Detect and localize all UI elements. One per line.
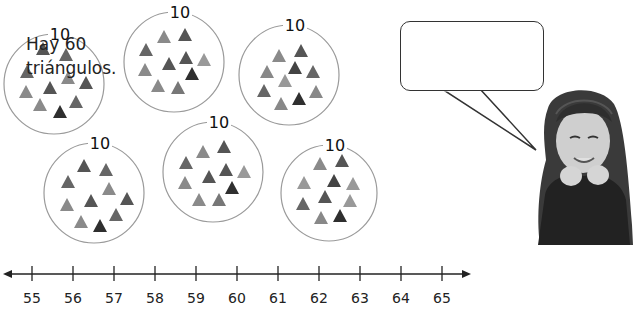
tick-label: 57 [105, 290, 123, 306]
group-count-label: 10 [325, 136, 345, 155]
triangle-icon [335, 154, 349, 167]
triangle-icon [346, 177, 360, 190]
triangle-icon [197, 53, 211, 66]
face [556, 109, 610, 173]
tick-label: 61 [269, 290, 287, 306]
triangle-icon [260, 65, 274, 78]
triangle-icon [19, 85, 33, 98]
triangle-icon [309, 85, 323, 98]
number-line: 5556575859606162636465 [3, 266, 471, 306]
triangle-icon [327, 174, 341, 187]
group-circle [44, 143, 144, 243]
tick-label: 55 [23, 290, 41, 306]
tick-label: 56 [64, 290, 82, 306]
speech-line-1: Hay 60 [26, 32, 166, 56]
speech-bubble [400, 21, 544, 91]
triangle-icon [314, 211, 328, 224]
triangle-icon [43, 81, 57, 94]
triangle-icon [109, 208, 123, 221]
triangle-icon [179, 51, 193, 64]
triangle-icon [178, 28, 192, 41]
girl-photo [538, 90, 633, 245]
triangle-group: 10 [239, 16, 339, 125]
triangle-icon [120, 192, 134, 205]
group-circle [281, 145, 377, 241]
triangle-icon [297, 176, 311, 189]
triangle-icon [274, 97, 288, 110]
triangle-icon [99, 163, 113, 176]
triangle-icon [178, 176, 192, 189]
triangle-icon [318, 190, 332, 203]
triangle-icon [192, 193, 206, 206]
speech-bubble-tail [442, 89, 536, 150]
tick-label: 63 [351, 290, 369, 306]
triangle-icon [272, 49, 286, 62]
triangle-icon [288, 61, 302, 74]
triangle-icon [313, 157, 327, 170]
triangle-icon [306, 65, 320, 78]
triangle-icon [53, 105, 67, 118]
triangle-icon [343, 194, 357, 207]
triangle-icon [69, 95, 83, 108]
triangle-icon [212, 193, 226, 206]
triangle-icon [237, 165, 251, 178]
sweater [538, 175, 630, 245]
left-fist [560, 166, 582, 186]
triangle-icon [217, 140, 231, 153]
triangle-group: 10 [163, 113, 263, 222]
triangle-icon [93, 219, 107, 232]
group-count-label: 10 [170, 3, 190, 22]
triangle-icon [171, 81, 185, 94]
triangle-icon [179, 156, 193, 169]
triangle-icon [102, 182, 116, 195]
tick-label: 62 [310, 290, 328, 306]
triangle-icon [225, 181, 239, 194]
triangle-group: 10 [281, 136, 377, 241]
tick-label: 65 [433, 290, 451, 306]
tick-label: 60 [228, 290, 246, 306]
triangle-icon [333, 209, 347, 222]
tick-label: 59 [187, 290, 205, 306]
triangle-icon [296, 197, 310, 210]
triangle-icon [292, 92, 306, 105]
group-count-label: 10 [90, 134, 110, 153]
tick-label: 58 [146, 290, 164, 306]
speech-line-2: triángulos. [26, 56, 166, 80]
tick-label: 64 [392, 290, 410, 306]
triangle-icon [84, 194, 98, 207]
triangle-icon [77, 159, 91, 172]
speech-bubble-text: Hay 60 triángulos. [26, 32, 166, 80]
group-circle [239, 25, 339, 125]
triangle-icon [196, 145, 210, 158]
triangle-icon [278, 74, 292, 87]
triangle-icon [202, 170, 216, 183]
group-count-label: 10 [285, 16, 305, 35]
triangle-icon [185, 67, 199, 80]
triangle-group: 10 [44, 134, 144, 243]
triangle-icon [33, 98, 47, 111]
triangle-icon [74, 215, 88, 228]
group-count-label: 10 [209, 113, 229, 132]
number-line-ticks: 5556575859606162636465 [23, 266, 451, 306]
triangle-icon [60, 198, 74, 211]
group-circle [163, 122, 263, 222]
triangle-icon [219, 163, 233, 176]
left-arrow-icon [3, 270, 12, 278]
triangle-icon [61, 175, 75, 188]
triangle-icon [294, 44, 308, 57]
right-fist [587, 165, 609, 185]
triangle-icon [151, 79, 165, 92]
right-arrow-icon [462, 270, 471, 278]
triangle-icon [257, 84, 271, 97]
